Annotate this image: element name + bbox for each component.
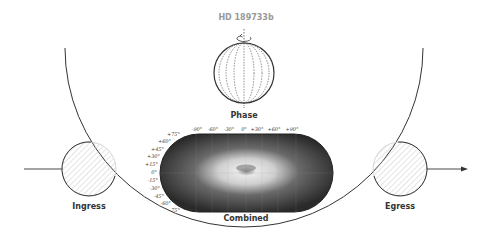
svg-text:+75°: +75° [167,131,181,137]
ingress-label: Ingress [72,202,106,211]
svg-text:-90°: -90° [192,126,203,132]
svg-text:+60°: +60° [267,126,281,132]
diagram-title: HD 189733b [218,13,274,22]
svg-text:-75°: -75° [169,207,180,213]
svg-text:-30°: -30° [224,126,235,132]
combined-label: Combined [223,214,268,223]
ingress-planet [24,142,116,196]
svg-text:0°: 0° [151,169,157,175]
svg-text:+45°: +45° [151,146,165,152]
svg-text:+90°: +90° [285,126,299,132]
svg-text:-45°: -45° [153,193,164,199]
svg-text:-30°: -30° [149,185,160,191]
rotation-arrow-icon [237,29,251,42]
planet-sphere-icon [214,43,274,108]
svg-text:+30°: +30° [250,126,264,132]
diagram-canvas: HD 189733b Phase - [0,0,492,242]
svg-text:0°: 0° [241,126,247,132]
svg-text:-60°: -60° [160,200,171,206]
combined-map [160,134,333,212]
longitude-ticks: -90° -60° -30° 0° +30° +60° +90° [192,126,299,132]
direction-arrow-icon [461,167,468,172]
svg-text:+60°: +60° [158,138,172,144]
svg-text:+15°: +15° [145,161,159,167]
egress-planet [373,142,468,196]
egress-label: Egress [385,202,415,211]
phase-label: Phase [230,111,258,120]
svg-text:-60°: -60° [208,126,219,132]
svg-text:-15°: -15° [147,177,158,183]
svg-text:+30°: +30° [147,153,161,159]
